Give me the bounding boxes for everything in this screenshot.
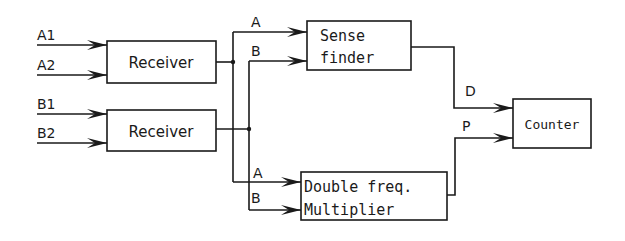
- signal-d: D: [411, 47, 513, 108]
- input-a2: A2: [37, 57, 107, 75]
- signal-label-mult-a: A: [253, 165, 263, 181]
- input-label-b2: B2: [37, 125, 56, 141]
- signal-label-mult-b: B: [251, 190, 261, 206]
- sense-finder-label-2: finder: [320, 49, 374, 67]
- signal-label-p: P: [462, 118, 470, 134]
- signal-bus-a: [216, 32, 307, 182]
- junction-dot: [231, 60, 235, 64]
- junction-dot: [247, 127, 251, 131]
- multiplier-label-2: Multiplier: [304, 201, 394, 219]
- input-b1: B1: [37, 96, 107, 114]
- sense-finder-block: Sense finder: [307, 21, 411, 70]
- double-freq-multiplier-block: Double freq. Multiplier: [301, 172, 447, 220]
- receiver-1-label: Receiver: [129, 54, 195, 72]
- counter-block: Counter: [513, 99, 591, 148]
- input-b2: B2: [37, 125, 107, 143]
- multiplier-label-1: Double freq.: [304, 178, 412, 196]
- block-diagram: A1 A2 B1 B2 Receiver Receiver A B A: [0, 0, 625, 241]
- counter-label: Counter: [525, 117, 580, 132]
- input-label-b1: B1: [37, 96, 56, 112]
- input-label-a2: A2: [37, 57, 55, 73]
- signal-bus-b: [216, 61, 307, 210]
- signal-label-sense-b: B: [251, 43, 261, 59]
- receiver-1-block: Receiver: [107, 41, 216, 83]
- input-label-a1: A1: [37, 27, 55, 43]
- input-a1: A1: [37, 27, 107, 45]
- signal-label-d: D: [465, 83, 476, 99]
- signal-label-sense-a: A: [251, 14, 261, 30]
- signal-p: P: [447, 118, 513, 195]
- receiver-2-label: Receiver: [129, 123, 195, 141]
- sense-finder-label-1: Sense: [320, 27, 365, 45]
- receiver-2-block: Receiver: [107, 110, 216, 151]
